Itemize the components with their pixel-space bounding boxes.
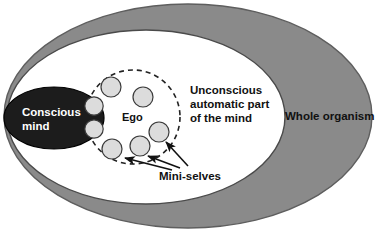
conscious-mind-label-line1: Conscious xyxy=(22,106,81,118)
mini-self-circle-top-right xyxy=(133,87,153,107)
mini-self-circle-top-left xyxy=(101,77,121,97)
diagram-canvas: Conscious mind Ego Unconscious automatic… xyxy=(0,0,376,234)
ego-label: Ego xyxy=(122,111,143,123)
conscious-mind-label-line2: mind xyxy=(22,120,49,132)
whole-organism-label: Whole organism xyxy=(285,110,374,122)
unconscious-label-line2: automatic part xyxy=(190,98,269,110)
mini-self-circle-conscious-lower xyxy=(85,120,103,138)
mini-self-circle-conscious-upper xyxy=(85,97,103,115)
mind-model-diagram: Conscious mind Ego Unconscious automatic… xyxy=(0,0,376,234)
unconscious-label-line1: Unconscious xyxy=(190,84,262,96)
mini-self-circle-bottom-center xyxy=(130,136,150,156)
mini-selves-label: Mini-selves xyxy=(159,170,221,182)
mini-self-circle-bottom-left xyxy=(102,139,122,159)
unconscious-label-line3: of the mind xyxy=(190,112,252,124)
mini-self-circle-right xyxy=(149,122,169,142)
conscious-mind-ellipse xyxy=(4,87,104,149)
